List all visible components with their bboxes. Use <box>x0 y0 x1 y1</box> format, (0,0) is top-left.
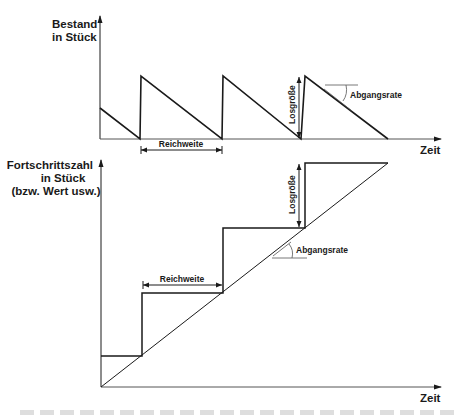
bottom-xlabel: Zeit <box>420 392 441 404</box>
bottom-outflow-line <box>101 163 388 387</box>
top-xlabel: Zeit <box>420 144 441 156</box>
top-rate-angle-arc <box>343 85 347 101</box>
top-chart: Bestand in Stück Zeit Reichweite Losgröß… <box>52 16 441 156</box>
bottom-ylabel-line3: (bzw. Wert usw.) <box>11 185 100 197</box>
top-ylabel-line2: in Stück <box>52 31 97 43</box>
top-rate-parallel-line <box>324 89 352 111</box>
bottom-rate-angle-arc <box>289 244 293 258</box>
bottom-rate-parallel-line <box>273 242 291 256</box>
top-sawtooth-line <box>100 76 388 139</box>
top-rate-label: Abgangsrate <box>350 90 402 100</box>
bottom-ylabel-line1: Fortschrittszahl <box>7 159 93 171</box>
bottom-rate-label: Abgangsrate <box>296 245 348 255</box>
top-lot-label: Losgröße <box>287 85 297 124</box>
clipped-caption-strip <box>20 410 457 415</box>
diagram-canvas: Bestand in Stück Zeit Reichweite Losgröß… <box>0 0 457 415</box>
bottom-chart: Fortschrittszahl in Stück (bzw. Wert usw… <box>7 159 441 404</box>
bottom-range-label: Reichweite <box>160 274 205 284</box>
bottom-ylabel-line2: in Stück <box>41 172 86 184</box>
top-ylabel-line1: Bestand <box>52 18 97 30</box>
bottom-lot-label: Losgröße <box>287 175 297 214</box>
bottom-staircase-line <box>101 163 388 356</box>
top-range-label: Reichweite <box>159 139 204 149</box>
